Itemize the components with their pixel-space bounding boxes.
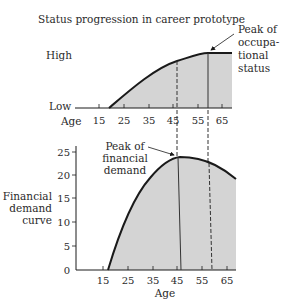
bottom-y-tick-labels: 0 5 10 15 20 25: [57, 147, 70, 276]
svg-text:0: 0: [64, 265, 70, 276]
svg-text:occupa-: occupa-: [238, 36, 280, 48]
svg-text:Peak of: Peak of: [238, 23, 278, 35]
svg-text:curve: curve: [22, 214, 52, 226]
svg-text:15: 15: [93, 115, 106, 126]
status-area-fill: [109, 53, 232, 108]
svg-text:demand: demand: [104, 164, 147, 176]
svg-text:35: 35: [143, 115, 156, 126]
y-high-label: High: [46, 49, 72, 61]
svg-text:45: 45: [171, 275, 184, 286]
svg-text:25: 25: [122, 275, 135, 286]
bottom-y-ticks: [72, 152, 76, 246]
svg-text:financial: financial: [102, 152, 148, 164]
svg-text:Financial: Financial: [3, 190, 53, 202]
career-status-diagram: Status progression in career prototype H…: [0, 0, 282, 307]
svg-text:55: 55: [196, 275, 209, 286]
top-chart: High Low Age 15 25 35 45 55 65 Peak of o…: [46, 23, 280, 127]
y-low-label: Low: [49, 100, 71, 112]
figure-title: Status progression in career prototype: [38, 13, 245, 25]
svg-text:15: 15: [97, 275, 110, 286]
svg-text:65: 65: [221, 275, 234, 286]
svg-text:10: 10: [57, 217, 70, 228]
bottom-y-axis-label: Financial demand curve: [3, 190, 53, 226]
svg-text:15: 15: [57, 193, 70, 204]
bottom-x-axis-label: Age: [154, 287, 176, 299]
bottom-chart: 0 5 10 15 20 25 15 25 35 45 55 65 Age Fi…: [3, 140, 236, 299]
svg-text:20: 20: [57, 170, 70, 181]
svg-text:35: 35: [147, 275, 160, 286]
svg-text:status: status: [238, 62, 270, 74]
bottom-x-tick-labels: 15 25 35 45 55 65: [97, 275, 234, 286]
peak-demand-arrow: [148, 147, 174, 155]
svg-text:55: 55: [192, 115, 205, 126]
top-x-axis-label: Age: [60, 115, 82, 127]
svg-text:Peak of: Peak of: [106, 140, 146, 152]
svg-text:tional: tional: [238, 49, 269, 61]
svg-text:65: 65: [216, 115, 229, 126]
svg-text:25: 25: [57, 147, 70, 158]
peak-status-arrow: [211, 34, 234, 50]
svg-text:demand: demand: [9, 202, 52, 214]
svg-text:25: 25: [118, 115, 131, 126]
svg-text:5: 5: [64, 241, 70, 252]
